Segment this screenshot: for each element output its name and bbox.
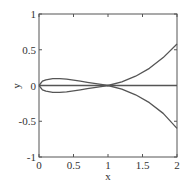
y-tick-label: 1 xyxy=(31,8,37,20)
x-tick-label: 1.5 xyxy=(136,159,150,171)
y-tick-label: -1 xyxy=(27,151,36,163)
data-series xyxy=(39,44,177,128)
x-axis-label: x xyxy=(105,170,111,182)
y-tick-label: 0.5 xyxy=(22,44,36,56)
series-line xyxy=(39,44,177,85)
series-line xyxy=(39,86,177,129)
x-tick-label: 0 xyxy=(36,159,42,171)
y-tick-label: 0 xyxy=(31,80,37,92)
y-tick-label: -0.5 xyxy=(19,115,37,127)
line-chart: 00.511.52 -1-0.500.51 x y xyxy=(0,0,189,188)
x-tick-label: 0.5 xyxy=(67,159,81,171)
x-tick-label: 2 xyxy=(174,159,180,171)
y-axis-label: y xyxy=(10,83,22,89)
